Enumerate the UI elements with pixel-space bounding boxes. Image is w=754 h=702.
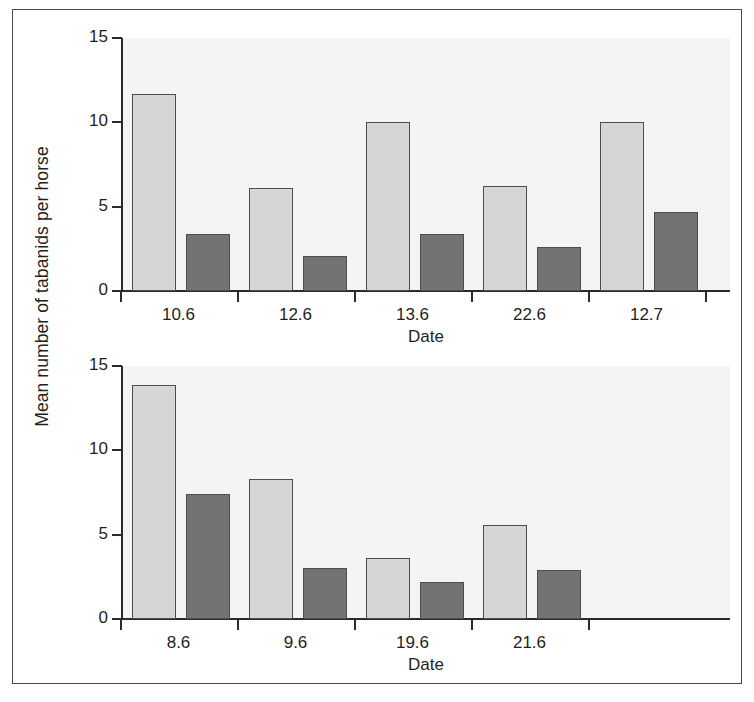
bars-layer-bottom [122,366,730,619]
x-tick-mark [588,620,590,630]
bar-dark-8.6 [186,494,230,619]
x-tick-label: 13.6 [373,305,453,325]
x-tick-mark [705,292,707,302]
y-tick-mark [112,534,122,536]
x-tick-label: 10.6 [139,305,219,325]
bar-dark-9.6 [303,568,347,619]
bar-light-9.6 [249,479,293,619]
chart-panel-bottom: 051015 8.69.619.621.6 Date [0,350,754,680]
bar-light-22.6 [483,186,527,291]
y-tick-label: 10 [44,439,108,459]
x-tick-mark [354,292,356,302]
x-tick-mark [237,292,239,302]
y-tick-label: 5 [44,524,108,544]
bar-dark-10.6 [186,234,230,291]
bar-dark-21.6 [537,570,581,619]
x-tick-mark [237,620,239,630]
chart-panel-top: 051015 10.612.613.622.612.7 Date [0,22,754,342]
x-tick-label: 19.6 [373,633,453,653]
bar-light-10.6 [132,94,176,291]
bar-light-12.7 [600,122,644,291]
bar-light-19.6 [366,558,410,619]
bars-layer-top [122,38,730,291]
bar-dark-13.6 [420,234,464,291]
y-tick-mark [112,37,122,39]
bar-dark-12.7 [654,212,698,291]
x-tick-label: 12.6 [256,305,336,325]
bar-light-8.6 [132,385,176,619]
y-tick-label: 15 [44,355,108,375]
y-tick-mark [112,365,122,367]
x-tick-label: 22.6 [490,305,570,325]
x-tick-label: 9.6 [256,633,336,653]
x-axis-title-top: Date [122,327,730,347]
bar-dark-12.6 [303,256,347,291]
x-tick-mark [120,292,122,302]
x-tick-mark [471,292,473,302]
x-tick-label: 8.6 [139,633,219,653]
y-tick-label: 5 [44,196,108,216]
x-axis-title-bottom: Date [122,655,730,675]
y-tick-mark [112,121,122,123]
y-tick-label: 0 [44,608,108,628]
x-tick-mark [471,620,473,630]
x-tick-mark [120,620,122,630]
bar-light-13.6 [366,122,410,291]
y-tick-mark [112,449,122,451]
bar-light-21.6 [483,525,527,619]
figure-root: Mean number of tabanids per horse 051015… [0,0,754,702]
y-tick-mark [112,206,122,208]
bar-dark-19.6 [420,582,464,619]
bar-dark-22.6 [537,247,581,291]
x-tick-label: 21.6 [490,633,570,653]
x-tick-mark [354,620,356,630]
y-tick-label: 10 [44,111,108,131]
bar-light-12.6 [249,188,293,291]
x-tick-label: 12.7 [607,305,687,325]
y-tick-label: 0 [44,280,108,300]
x-tick-mark [588,292,590,302]
y-tick-label: 15 [44,27,108,47]
